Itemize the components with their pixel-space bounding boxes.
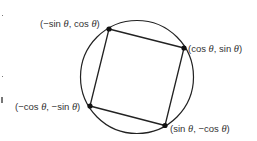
edge-mark-3	[1, 97, 3, 103]
inscribed-square	[90, 29, 184, 126]
vertex-bottom-left	[87, 103, 92, 108]
vertex-right	[181, 45, 186, 50]
label-bottom-right: (sin θ, −cos θ)	[170, 123, 230, 134]
vertex-bottom-right	[162, 123, 167, 128]
edge-mark-2	[2, 76, 3, 77]
edge-mark-1	[2, 15, 3, 16]
label-top-left: (−sin θ, cos θ)	[40, 18, 100, 29]
inscribed-square-diagram: (−sin θ, cos θ) (cos θ, sin θ) (sin θ, −…	[0, 0, 257, 141]
vertex-group	[87, 26, 186, 128]
label-bottom-left: (−cos θ, −sin θ)	[15, 101, 80, 112]
label-right: (cos θ, sin θ)	[188, 43, 242, 54]
vertex-top-left	[106, 26, 111, 31]
